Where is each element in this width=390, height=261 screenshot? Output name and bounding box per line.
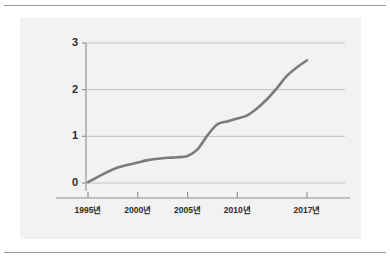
- y-axis-tick-label: 1: [56, 130, 78, 141]
- x-axis-tick-label: 2000년: [116, 205, 160, 215]
- x-axis-tick-label: 2017년: [285, 205, 329, 215]
- x-axis-tick-label: 1995년: [66, 205, 110, 215]
- y-axis-tick-label: 0: [56, 177, 78, 188]
- data-series-line: [88, 60, 307, 182]
- y-axis-tick-label: 2: [56, 84, 78, 95]
- axis-ticks: [82, 43, 307, 198]
- y-axis-tick-label: 3: [56, 37, 78, 48]
- x-axis-tick-label: 2005년: [166, 205, 210, 215]
- gridlines: [86, 43, 345, 183]
- chart-page: 0123 1995년2000년2005년2010년2017년: [0, 0, 390, 261]
- x-axis-tick-label: 2010년: [215, 205, 259, 215]
